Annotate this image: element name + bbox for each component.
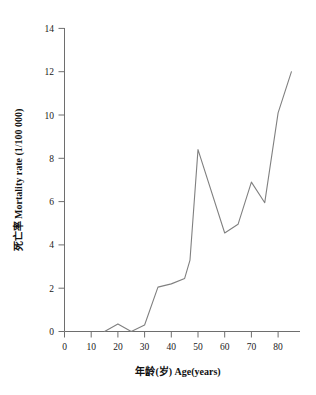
y-axis-title: 死亡率 Mortality rate (1/100 000) — [12, 109, 25, 252]
y-tick-label: 14 — [45, 24, 55, 34]
y-tick-label: 12 — [45, 67, 55, 77]
x-axis-title: 年龄(岁) Age(years) — [135, 365, 220, 378]
chart-figure: 0 2 4 6 8 10 12 14 0 10 20 30 40 — [0, 0, 316, 395]
x-tick-label: 30 — [140, 342, 150, 352]
plot-area — [64, 28, 292, 331]
y-tick-label: 4 — [49, 240, 54, 250]
mortality-rate-line-chart: 0 2 4 6 8 10 12 14 0 10 20 30 40 — [0, 0, 316, 395]
y-tick-label: 2 — [49, 284, 54, 294]
y-axis-ticks — [59, 28, 65, 331]
y-tick-label: 8 — [49, 154, 54, 164]
x-tick-label: 40 — [167, 342, 177, 352]
x-tick-label: 50 — [193, 342, 203, 352]
x-axis-ticks — [65, 332, 279, 338]
x-tick-label: 20 — [113, 342, 123, 352]
x-tick-label: 10 — [86, 342, 96, 352]
x-tick-label: 80 — [273, 342, 283, 352]
y-tick-label: 10 — [45, 111, 55, 121]
x-tick-label: 60 — [220, 342, 230, 352]
x-axis-tick-labels: 0 10 20 30 40 50 60 70 80 — [62, 342, 283, 352]
x-tick-label: 0 — [62, 342, 67, 352]
x-tick-label: 70 — [247, 342, 257, 352]
y-tick-label: 6 — [49, 197, 54, 207]
y-tick-label: 0 — [49, 327, 54, 337]
y-axis-tick-labels: 0 2 4 6 8 10 12 14 — [45, 24, 55, 337]
